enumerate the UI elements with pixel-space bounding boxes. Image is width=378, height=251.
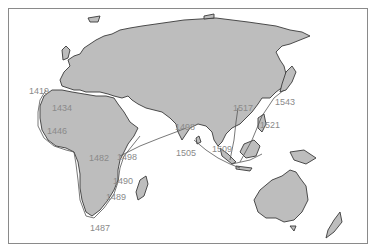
british-isles: [62, 46, 70, 60]
year-label-1498-africa: 1498: [117, 153, 137, 162]
novaya-zemlya: [204, 14, 214, 19]
year-label-1482: 1482: [89, 154, 109, 163]
year-label-1509: 1509: [212, 145, 232, 154]
year-label-1434: 1434: [52, 104, 72, 113]
year-label-1505: 1505: [176, 149, 196, 158]
year-label-1419: 1419: [29, 87, 49, 96]
year-label-1517: 1517: [233, 104, 253, 113]
year-label-1489: 1489: [106, 193, 126, 202]
new-zealand: [326, 212, 342, 238]
year-label-1498-india: 1498: [175, 123, 195, 132]
new-guinea: [290, 150, 316, 164]
java: [236, 166, 252, 171]
tasmania: [290, 226, 296, 231]
borneo: [240, 140, 260, 158]
year-label-1543: 1543: [275, 98, 295, 107]
madagascar: [136, 176, 148, 200]
australia: [254, 170, 308, 222]
year-label-1487: 1487: [90, 224, 110, 233]
svalbard: [88, 16, 100, 22]
year-label-1446: 1446: [47, 127, 67, 136]
year-label-1490: 1490: [113, 177, 133, 186]
year-label-1521: 1521: [260, 121, 280, 130]
